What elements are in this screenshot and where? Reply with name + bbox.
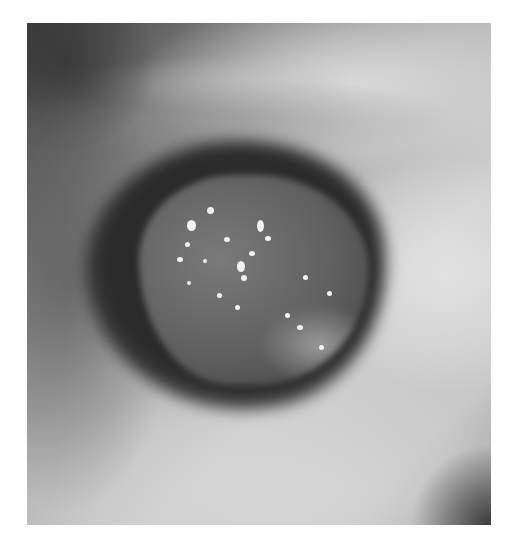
endoscopic-photo xyxy=(27,23,491,525)
